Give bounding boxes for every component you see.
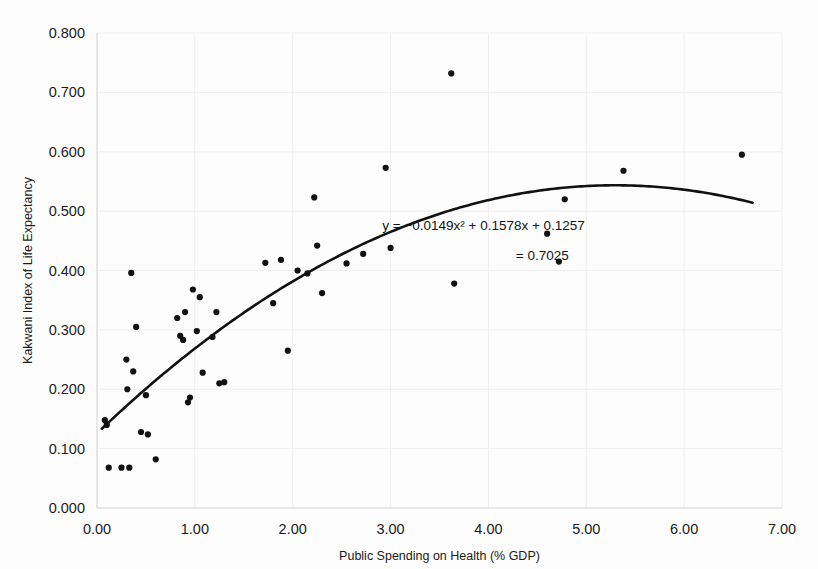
y-tick-label: 0.100: [49, 441, 85, 457]
data-point: [383, 165, 389, 171]
data-point: [182, 309, 188, 315]
y-tick-label: 0.200: [49, 381, 85, 397]
y-tick-label: 0.600: [49, 144, 85, 160]
data-point: [187, 394, 193, 400]
x-tick-label: 4.00: [474, 521, 502, 537]
data-point: [133, 324, 139, 330]
data-point: [343, 260, 349, 266]
regression-equation: y = −0.0149x² + 0.1578x + 0.1257: [382, 218, 585, 233]
y-tick-label: 0.400: [49, 263, 85, 279]
x-tick-label: 6.00: [670, 521, 698, 537]
y-axis-tick-labels: 0.0000.1000.2000.3000.4000.5000.6000.700…: [49, 25, 85, 516]
x-axis-tick-labels: 0.001.002.003.004.005.006.007.00: [83, 521, 796, 537]
data-point: [174, 315, 180, 321]
data-point: [295, 267, 301, 273]
data-point: [270, 300, 276, 306]
data-point: [138, 429, 144, 435]
data-point: [126, 465, 132, 471]
data-point: [285, 348, 291, 354]
gridlines: [97, 33, 782, 508]
data-point: [180, 337, 186, 343]
y-tick-label: 0.500: [49, 203, 85, 219]
data-point: [278, 257, 284, 263]
data-point: [739, 152, 745, 158]
chart-annotations: y = −0.0149x² + 0.1578x + 0.1257= 0.7025: [382, 218, 585, 263]
x-tick-label: 3.00: [376, 521, 404, 537]
data-point: [448, 70, 454, 76]
y-tick-label: 0.000: [49, 500, 85, 516]
y-tick-label: 0.800: [49, 25, 85, 41]
data-point: [262, 260, 268, 266]
y-tick-label: 0.700: [49, 84, 85, 100]
data-point: [387, 245, 393, 251]
cut-off-caption: [8, 548, 428, 566]
data-point: [319, 290, 325, 296]
data-point: [213, 309, 219, 315]
data-point: [194, 328, 200, 334]
x-tick-label: 2.00: [279, 521, 307, 537]
data-point: [311, 194, 317, 200]
data-point: [190, 286, 196, 292]
chart-figure: 0.0000.1000.2000.3000.4000.5000.6000.700…: [0, 0, 818, 569]
data-point: [360, 251, 366, 257]
data-point: [106, 465, 112, 471]
x-tick-label: 1.00: [181, 521, 209, 537]
data-point: [118, 465, 124, 471]
data-point: [124, 386, 130, 392]
data-point: [221, 379, 227, 385]
data-point: [562, 196, 568, 202]
data-point: [123, 356, 129, 362]
data-point: [153, 456, 159, 462]
data-point: [145, 431, 151, 437]
y-tick-label: 0.300: [49, 322, 85, 338]
data-point: [200, 370, 206, 376]
scatter-plot-svg: 0.0000.1000.2000.3000.4000.5000.6000.700…: [0, 0, 818, 569]
data-point: [130, 368, 136, 374]
data-point: [620, 168, 626, 174]
x-tick-label: 0.00: [83, 521, 111, 537]
data-point: [128, 270, 134, 276]
x-tick-label: 7.00: [768, 521, 796, 537]
data-point: [451, 280, 457, 286]
data-point: [197, 294, 203, 300]
r-squared-value: = 0.7025: [516, 248, 569, 263]
data-point: [143, 392, 149, 398]
x-tick-label: 5.00: [572, 521, 600, 537]
data-point: [314, 242, 320, 248]
y-axis-title: Kakwani Index of Life Expectancy: [21, 176, 35, 364]
